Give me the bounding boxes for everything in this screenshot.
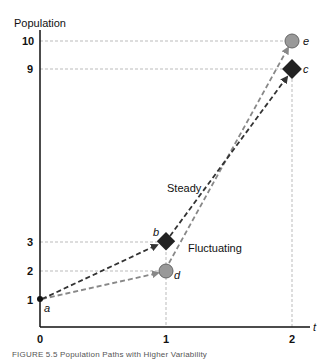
y-tick-9: 9 xyxy=(27,63,33,75)
x-tick-0: 0 xyxy=(37,333,43,345)
point-d-circle xyxy=(159,264,173,278)
point-b-diamond xyxy=(157,232,175,250)
y-axis-label: Population xyxy=(14,17,66,29)
y-tick-2: 2 xyxy=(27,265,33,277)
series-fluctuating xyxy=(42,48,288,299)
point-e-circle xyxy=(285,34,299,48)
guide-lines xyxy=(40,41,292,327)
population-chart: Population t 10 9 3 2 1 0 1 2 a b c d e … xyxy=(0,0,336,361)
figure-caption: FIGURE 5.5 Population Paths with Higher … xyxy=(12,350,207,359)
x-tick-2: 2 xyxy=(289,333,295,345)
point-label-d: d xyxy=(174,269,181,281)
point-label-c: c xyxy=(303,63,309,75)
y-tick-1: 1 xyxy=(27,294,33,306)
point-label-b: b xyxy=(153,226,159,238)
annotation-steady: Steady xyxy=(167,182,202,194)
point-label-e: e xyxy=(303,35,309,47)
point-c-diamond xyxy=(282,59,302,79)
annotation-fluctuating: Fluctuating xyxy=(188,242,242,254)
x-axis-label: t xyxy=(313,321,317,333)
point-label-a: a xyxy=(44,302,50,314)
point-a-dot xyxy=(37,296,43,302)
y-tick-10: 10 xyxy=(22,35,34,47)
y-tick-3: 3 xyxy=(27,236,33,248)
x-tick-1: 1 xyxy=(163,333,169,345)
